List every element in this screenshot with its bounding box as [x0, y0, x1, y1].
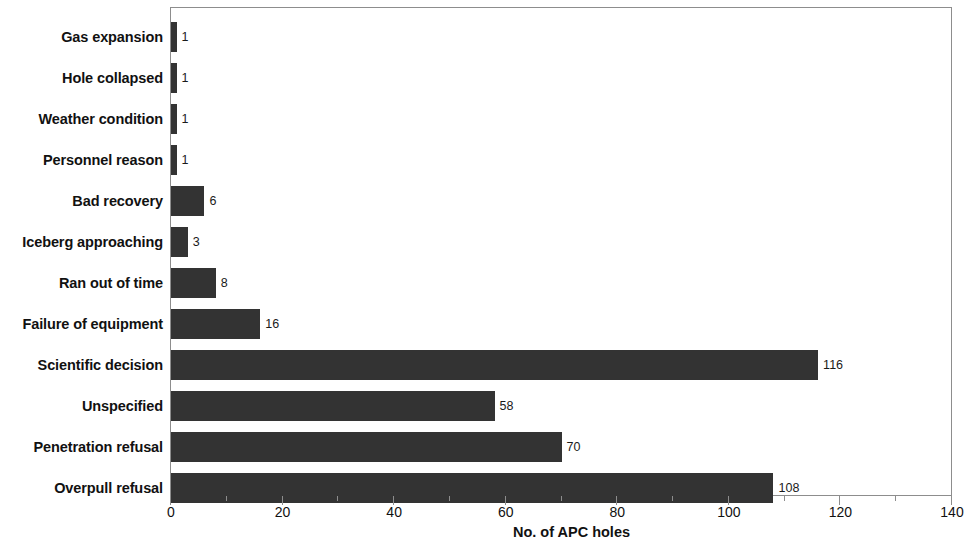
- category-label: Gas expansion: [61, 17, 163, 58]
- x-axis-tick-label: 80: [609, 504, 625, 520]
- bar-value-label: 1: [182, 22, 189, 52]
- bar-row: Hole collapsed1: [0, 58, 975, 99]
- bar: [171, 391, 495, 421]
- bar-group: 1: [171, 22, 189, 52]
- bar-value-label: 8: [221, 268, 228, 298]
- bar-row: Gas expansion1: [0, 17, 975, 58]
- x-axis-minor-tick: [895, 496, 896, 501]
- bar-group: 16: [171, 309, 279, 339]
- bar-value-label: 1: [182, 145, 189, 175]
- category-label: Penetration refusal: [34, 427, 163, 468]
- bar: [171, 145, 177, 175]
- category-label: Scientific decision: [38, 345, 163, 386]
- bar-group: 1: [171, 145, 189, 175]
- x-axis-minor-tick: [337, 496, 338, 501]
- x-axis-minor-tick: [672, 496, 673, 501]
- x-axis-tick-label: 0: [167, 504, 175, 520]
- bar-group: 116: [171, 350, 843, 380]
- x-axis-minor-tick: [784, 496, 785, 501]
- bar-row: Scientific decision116: [0, 345, 975, 386]
- x-axis: [170, 496, 952, 497]
- x-axis-tick-label: 140: [940, 504, 963, 520]
- category-label: Ran out of time: [59, 263, 163, 304]
- bar-value-label: 58: [500, 391, 514, 421]
- bar-value-label: 6: [209, 186, 216, 216]
- category-label: Iceberg approaching: [22, 222, 163, 263]
- bar-row: Failure of equipment16: [0, 304, 975, 345]
- bar: [171, 309, 260, 339]
- x-axis-minor-tick: [561, 496, 562, 501]
- bar-value-label: 3: [193, 227, 200, 257]
- bar-row: Unspecified58: [0, 386, 975, 427]
- bar-value-label: 1: [182, 104, 189, 134]
- category-label: Weather condition: [38, 99, 163, 140]
- bar: [171, 473, 773, 503]
- bar-row: Penetration refusal70: [0, 427, 975, 468]
- bar: [171, 268, 216, 298]
- bar-row: Iceberg approaching3: [0, 222, 975, 263]
- category-label: Failure of equipment: [22, 304, 163, 345]
- x-axis-title: No. of APC holes: [0, 524, 975, 540]
- bar-row: Ran out of time8: [0, 263, 975, 304]
- x-axis-minor-tick: [226, 496, 227, 501]
- bar-group: 3: [171, 227, 200, 257]
- category-label: Overpull refusal: [54, 468, 163, 509]
- bar-group: 8: [171, 268, 228, 298]
- bar-group: 1: [171, 63, 189, 93]
- bar-row: Overpull refusal108: [0, 468, 975, 509]
- bar-value-label: 16: [265, 309, 279, 339]
- bar-group: 108: [171, 473, 799, 503]
- x-axis-tick-label: 20: [275, 504, 291, 520]
- bar-group: 1: [171, 104, 189, 134]
- bar-value-label: 1: [182, 63, 189, 93]
- bar: [171, 104, 177, 134]
- category-label: Bad recovery: [72, 181, 163, 222]
- bar-value-label: 70: [567, 432, 581, 462]
- bar-value-label: 108: [778, 473, 799, 503]
- bar-row: Personnel reason1: [0, 140, 975, 181]
- x-axis-tick-label: 40: [386, 504, 402, 520]
- category-label: Unspecified: [82, 386, 163, 427]
- bar: [171, 22, 177, 52]
- bar: [171, 186, 204, 216]
- category-label: Personnel reason: [43, 140, 163, 181]
- bar-group: 70: [171, 432, 580, 462]
- x-axis-tick-label: 100: [717, 504, 740, 520]
- bar-value-label: 116: [823, 350, 843, 380]
- bar-row: Bad recovery6: [0, 181, 975, 222]
- bar: [171, 227, 188, 257]
- x-axis-minor-tick: [449, 496, 450, 501]
- bar: [171, 350, 818, 380]
- x-axis-title-text: No. of APC holes: [513, 524, 630, 540]
- x-axis-tick-label: 120: [829, 504, 852, 520]
- bar-chart: Gas expansion1Hole collapsed1Weather con…: [0, 0, 975, 546]
- x-axis-tick-label: 60: [498, 504, 514, 520]
- bar-group: 6: [171, 186, 216, 216]
- bar: [171, 63, 177, 93]
- category-label: Hole collapsed: [62, 58, 163, 99]
- bar: [171, 432, 562, 462]
- bar-row: Weather condition1: [0, 99, 975, 140]
- bar-group: 58: [171, 391, 513, 421]
